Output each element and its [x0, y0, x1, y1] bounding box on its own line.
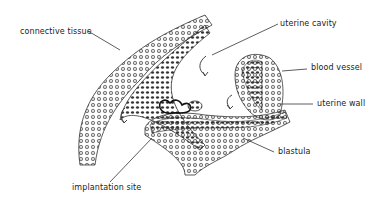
label-uterine-cavity: uterine cavity: [280, 19, 337, 28]
label-connective-tissue: connective tissue: [20, 27, 92, 36]
implantation-diagram: connective tissue uterine cavity blood v…: [0, 0, 385, 204]
right-tissue-fold: [235, 54, 283, 120]
label-blood-vessel: blood vessel: [311, 63, 362, 72]
label-blastula: blastula: [278, 147, 311, 156]
lower-uterine-wall: [145, 110, 290, 175]
label-uterine-wall: uterine wall: [317, 99, 365, 108]
label-implantation-site: implantation site: [72, 183, 141, 192]
